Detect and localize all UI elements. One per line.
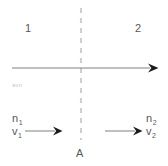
refractive-index-one: n1 [12, 112, 22, 125]
velocity-one: v1 [12, 125, 22, 138]
region-label-medium-two: 2 [135, 23, 141, 34]
refractive-index-two: n2 [146, 112, 156, 125]
interface-label: A [76, 148, 83, 159]
medium-one-quantities: n1 v1 [12, 112, 22, 138]
velocity-two: v2 [146, 125, 156, 138]
medium-two-quantities: n2 v2 [146, 112, 156, 138]
refraction-diagram: 1 2 avn n1 v1 n2 v2 A [0, 0, 168, 166]
region-label-medium-one: 1 [25, 23, 31, 34]
faint-annotation-text: avn [12, 82, 22, 88]
